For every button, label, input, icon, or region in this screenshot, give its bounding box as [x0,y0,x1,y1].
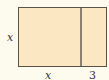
outer-rectangle [18,7,107,67]
label-left-side: x [7,32,13,43]
label-bottom-square: x [45,70,51,80]
label-bottom-strip: 3 [89,70,96,80]
divider-line [80,8,82,66]
